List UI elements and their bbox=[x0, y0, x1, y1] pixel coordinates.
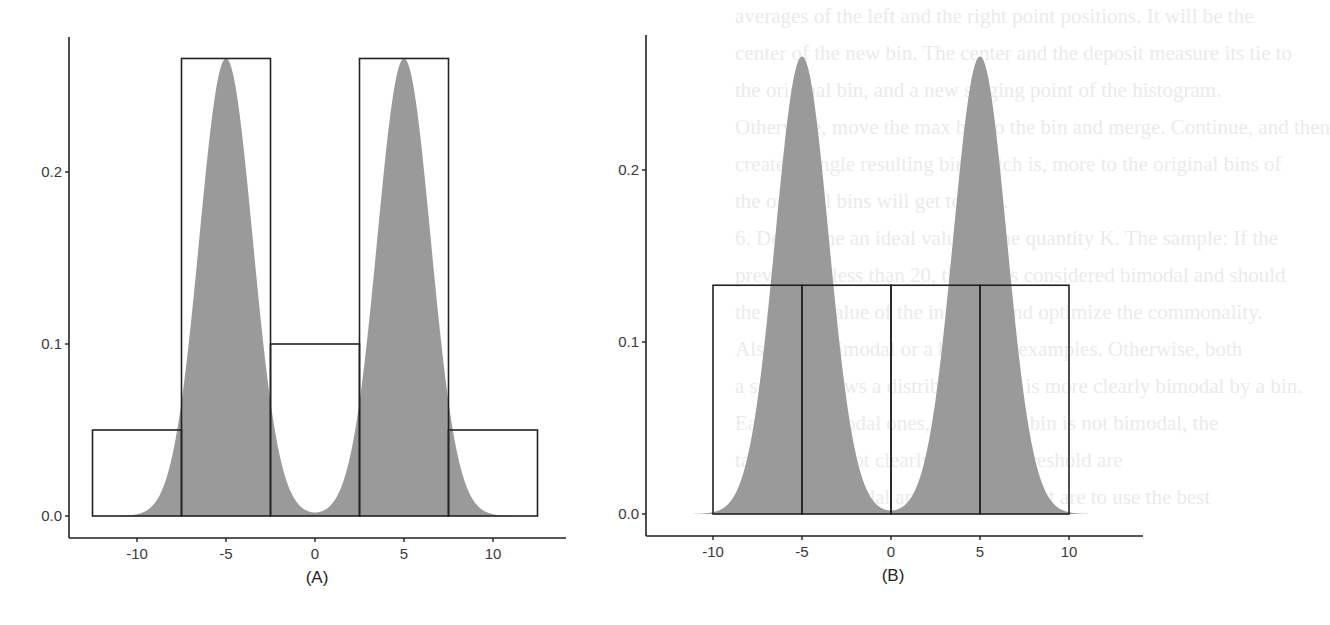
y-tick-label: 0.1 bbox=[618, 333, 639, 350]
x-tick-label: 0 bbox=[887, 543, 895, 560]
x-tick-label: -10 bbox=[702, 543, 724, 560]
panel-label: (B) bbox=[882, 566, 905, 585]
x-tick-label: -5 bbox=[795, 543, 808, 560]
y-tick-label: 0.2 bbox=[618, 161, 639, 178]
x-tick-label: 10 bbox=[1061, 543, 1078, 560]
y-tick-label: 0.0 bbox=[618, 505, 639, 522]
x-tick-label: 5 bbox=[976, 543, 984, 560]
